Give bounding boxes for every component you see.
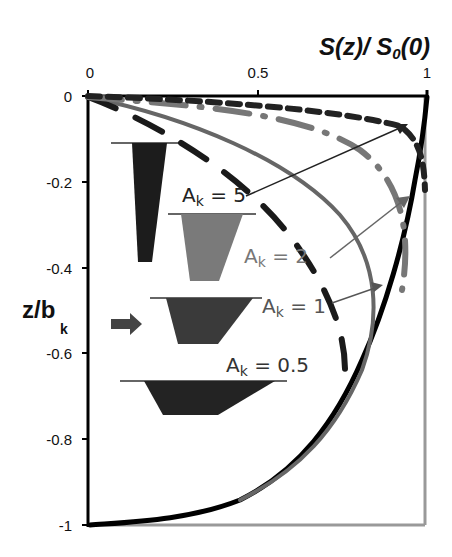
svg-text:-0.2: -0.2 bbox=[46, 174, 72, 191]
label-ak05: Ak = 0.5 bbox=[226, 353, 309, 379]
svg-text:-0.8: -0.8 bbox=[46, 431, 72, 448]
svg-text:0.5: 0.5 bbox=[248, 64, 269, 81]
label-ak5: Ak = 5 bbox=[182, 183, 246, 209]
x-tick-labels: 0 0.5 1 bbox=[86, 64, 431, 81]
channel-shape-ak1 bbox=[166, 298, 253, 344]
svg-text:-0.6: -0.6 bbox=[46, 345, 72, 362]
highlight-arrow-icon bbox=[111, 313, 142, 335]
svg-text:-1: -1 bbox=[59, 517, 72, 534]
svg-text:1: 1 bbox=[423, 64, 431, 81]
y-axis-title-sub: k bbox=[60, 321, 68, 337]
svg-text:0: 0 bbox=[86, 64, 94, 81]
chart-canvas: 0 0.5 1 0 -0.2 -0.4 -0.6 -0.8 -1 S(z)/ S… bbox=[0, 0, 452, 557]
channel-shape-ak05 bbox=[144, 381, 275, 415]
channel-shape-ak5 bbox=[132, 143, 167, 262]
svg-text:0: 0 bbox=[64, 88, 72, 105]
channel-shape-ak2 bbox=[181, 214, 243, 281]
label-ak1: Ak = 1 bbox=[262, 294, 326, 320]
svg-text:-0.4: -0.4 bbox=[46, 260, 72, 277]
label-ak2: Ak = 2 bbox=[244, 244, 308, 270]
y-axis-title: z/b bbox=[22, 296, 55, 323]
x-axis-title: S(z)/ S0(0) bbox=[319, 33, 430, 62]
